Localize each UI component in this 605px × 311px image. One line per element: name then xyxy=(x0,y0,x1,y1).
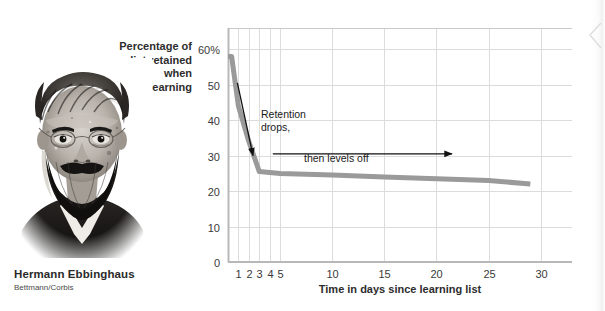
x-tick-label: 25 xyxy=(483,268,495,280)
portrait-hermann-ebbinghaus-image xyxy=(12,58,152,258)
y-tick-label: 50 xyxy=(208,80,220,92)
portrait-caption-name: Hermann Ebbinghaus xyxy=(14,268,184,281)
then-levels-off-annotation: then levels off xyxy=(304,152,369,165)
x-tick-label: 10 xyxy=(326,268,338,280)
portrait-frame xyxy=(12,58,152,258)
y-tick-label: 0 xyxy=(214,257,220,269)
x-tick-label: 4 xyxy=(267,268,273,280)
y-tick-label: 20 xyxy=(208,186,220,198)
x-tick-label: 5 xyxy=(277,268,283,280)
x-tick-label: 15 xyxy=(378,268,390,280)
retention-drops-line-2: drops, xyxy=(261,121,306,134)
portrait-block xyxy=(12,58,162,258)
y-tick-label: 60% xyxy=(198,44,220,56)
x-tick-label: 30 xyxy=(535,268,547,280)
retention-drops-annotation: Retention drops, xyxy=(261,108,306,133)
y-tick-label: 10 xyxy=(208,222,220,234)
y-axis-title-line-1: Percentage of xyxy=(96,40,192,54)
y-tick-label: 30 xyxy=(208,151,220,163)
x-tick-label: 20 xyxy=(430,268,442,280)
x-axis-title: Time in days since learning list xyxy=(228,283,572,295)
y-tick-label: 40 xyxy=(208,115,220,127)
x-tick-label: 3 xyxy=(256,268,262,280)
portrait-caption-credit: Bettmann/Corbis xyxy=(14,283,184,293)
x-tick-label: 1 xyxy=(235,268,241,280)
x-tick-label: 2 xyxy=(246,268,252,280)
retention-drops-line-1: Retention xyxy=(261,108,306,121)
portrait-caption: Hermann Ebbinghaus Bettmann/Corbis xyxy=(14,268,184,293)
plot-area-background xyxy=(228,28,572,262)
